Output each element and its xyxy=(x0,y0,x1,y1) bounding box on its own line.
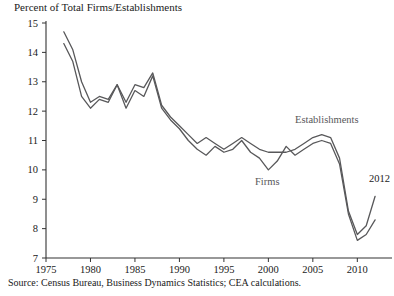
svg-text:2005: 2005 xyxy=(302,264,323,275)
svg-text:7: 7 xyxy=(33,253,38,264)
svg-text:8: 8 xyxy=(33,223,38,234)
svg-text:2000: 2000 xyxy=(258,264,279,275)
series-label-establishments: Establishments xyxy=(295,114,359,125)
svg-text:1975: 1975 xyxy=(36,264,57,275)
svg-text:2010: 2010 xyxy=(347,264,368,275)
svg-text:12: 12 xyxy=(28,106,39,117)
series-line-establishments xyxy=(64,32,375,235)
line-chart-plot: 789101112131415 197519801985199019952000… xyxy=(0,0,394,296)
svg-text:1980: 1980 xyxy=(80,264,101,275)
svg-text:9: 9 xyxy=(33,194,38,205)
y-axis-ticks: 789101112131415 xyxy=(28,18,47,264)
series-line-firms xyxy=(64,44,375,241)
svg-text:14: 14 xyxy=(28,47,39,58)
figure-container: Percent of Total Firms/Establishments 78… xyxy=(0,0,394,296)
svg-text:13: 13 xyxy=(28,76,39,87)
svg-text:1990: 1990 xyxy=(169,264,190,275)
svg-text:1985: 1985 xyxy=(124,264,145,275)
series-label-firms: Firms xyxy=(255,176,280,187)
svg-text:10: 10 xyxy=(28,164,39,175)
svg-text:1995: 1995 xyxy=(213,264,234,275)
x-axis-ticks: 19751980198519901995200020052010 xyxy=(36,258,368,275)
svg-text:11: 11 xyxy=(28,135,38,146)
endpoint-year-label: 2012 xyxy=(369,173,390,184)
source-note: Source: Census Bureau, Business Dynamics… xyxy=(8,277,301,289)
svg-text:15: 15 xyxy=(28,18,39,29)
